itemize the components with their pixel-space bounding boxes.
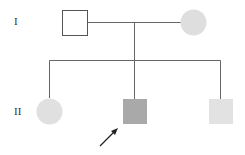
individual-i-2-female-circle: [181, 10, 207, 36]
individual-ii-1-female-circle: [37, 99, 63, 125]
individual-ii-3-male-square: [209, 99, 233, 124]
pedigree-chart: [0, 0, 245, 155]
individual-ii-2-proband-square: [123, 99, 147, 124]
individual-i-1-male-square: [63, 11, 88, 36]
proband-arrow-icon: [100, 128, 118, 146]
